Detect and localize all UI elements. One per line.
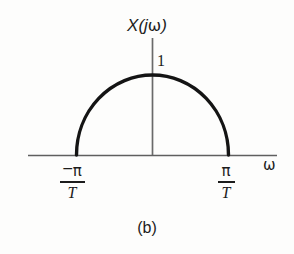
right-cutoff-tick-label: π T	[206, 162, 246, 202]
left-tick-numerator: −π	[48, 162, 96, 181]
transform-title-suffix: )	[161, 16, 167, 35]
minus-sign: −	[62, 160, 74, 176]
right-tick-pi: π	[221, 162, 230, 180]
left-cutoff-tick-label: −π T	[48, 162, 96, 202]
amplitude-value-label: 1	[157, 53, 165, 69]
right-tick-denominator: T	[206, 183, 246, 202]
transform-title-prefix: X(	[127, 16, 144, 35]
left-tick-pi: π	[73, 162, 82, 180]
right-tick-numerator: π	[206, 162, 246, 181]
figure-plot-canvas	[0, 0, 294, 254]
figure-caption: (b)	[0, 220, 294, 236]
transform-title-omega: ω	[148, 16, 161, 35]
left-tick-denominator: T	[48, 183, 96, 202]
transform-title: X(jω)	[0, 17, 294, 34]
fourier-transform-figure: X(jω) 1 ω −π T π T (b)	[0, 0, 294, 254]
omega-axis-label: ω	[263, 158, 276, 173]
